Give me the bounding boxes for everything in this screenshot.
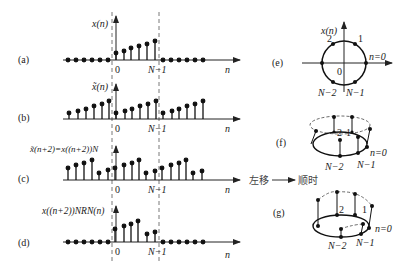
svg-text:n: n <box>225 249 230 260</box>
svg-text:n=0: n=0 <box>369 51 386 62</box>
transition: 左移 顺时 <box>249 174 318 186</box>
panel-c-ylabel: x̃(n+2)=x((n+2))N <box>29 144 99 154</box>
panel-a: (a) x(n) 0 N−1 n <box>18 16 240 75</box>
svg-text:N−1: N−1 <box>147 123 166 134</box>
panel-c: (c) x̃(n+2)=x((n+2))N 0 N−1 n <box>18 144 240 195</box>
panel-b: (b) x̃(n) 0 N−1 n <box>18 81 240 134</box>
svg-text:1: 1 <box>358 33 363 44</box>
svg-text:2: 2 <box>339 204 344 215</box>
svg-text:n=0: n=0 <box>375 223 392 234</box>
panel-a-ylabel: x(n) <box>91 18 109 30</box>
svg-text:N−1: N−1 <box>147 246 166 257</box>
panel-f: (f) 2 1 n=0 N−2 N−1 <box>276 115 387 172</box>
panel-d-ylabel: x((n+2))NRN(n) <box>41 206 104 217</box>
panel-d: (d) x((n+2))NRN(n) 0 N−1 n <box>18 206 240 260</box>
svg-text:N−1: N−1 <box>355 237 374 248</box>
svg-text:0: 0 <box>337 66 342 77</box>
svg-text:0: 0 <box>115 123 120 134</box>
svg-text:n=0: n=0 <box>370 147 387 158</box>
panel-g: (g) 2 1 n=0 N−2 N−1 <box>273 190 392 251</box>
svg-text:2: 2 <box>327 33 332 44</box>
panel-f-tag: (f) <box>276 137 286 149</box>
svg-text:1: 1 <box>346 127 351 138</box>
svg-text:0: 0 <box>115 64 120 75</box>
panel-d-tag: (d) <box>18 237 30 249</box>
svg-text:N−2: N−2 <box>317 87 336 98</box>
svg-text:N−1: N−1 <box>147 184 166 195</box>
svg-text:N−2: N−2 <box>324 161 343 172</box>
left-shift-label: 左移 <box>249 174 269 186</box>
svg-text:0: 0 <box>115 184 120 195</box>
panel-c-tag: (c) <box>18 173 29 185</box>
panel-b-ylabel: x̃(n) <box>91 81 109 93</box>
svg-text:N−1: N−1 <box>147 64 166 75</box>
svg-text:n: n <box>225 123 230 134</box>
svg-text:N−1: N−1 <box>356 159 375 170</box>
panel-g-tag: (g) <box>273 207 285 219</box>
panel-e-tag: (e) <box>272 57 283 69</box>
svg-text:N−1: N−1 <box>345 87 364 98</box>
svg-text:n: n <box>225 184 230 195</box>
panel-a-tag: (a) <box>18 54 29 66</box>
svg-text:2: 2 <box>337 127 342 138</box>
svg-text:1: 1 <box>362 204 367 215</box>
panel-b-tag: (b) <box>18 112 30 124</box>
svg-text:N−2: N−2 <box>327 240 346 251</box>
clockwise-label: 顺时 <box>298 175 318 186</box>
svg-text:0: 0 <box>115 246 120 257</box>
svg-text:n: n <box>225 64 230 75</box>
panel-e: (e) x(n) 1 2 n=0 0 N−2 N−1 <box>272 22 392 98</box>
circular-shift-diagram: (a) x(n) 0 N−1 n (b) x̃(n) 0 N−1 n <box>0 0 406 278</box>
